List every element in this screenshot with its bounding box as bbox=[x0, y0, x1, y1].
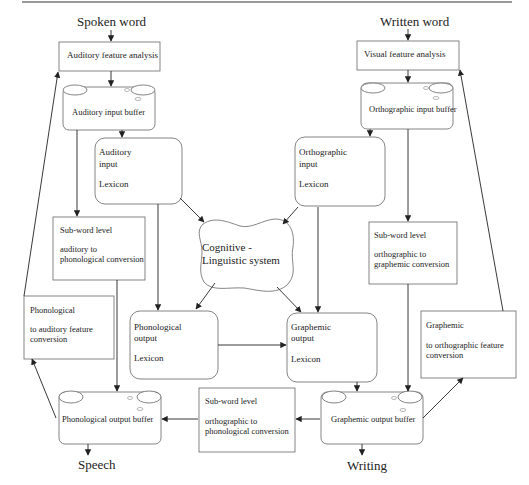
graphemic-output-buffer-label: Graphemic output buffer bbox=[331, 414, 415, 425]
subword-aud-phon-line3: phonological conversion bbox=[60, 254, 144, 265]
subword-orth-graph-line1: Sub-word level bbox=[374, 230, 426, 241]
graph-output-lexicon-line2: output bbox=[291, 333, 314, 344]
writing-label: Writing bbox=[347, 458, 387, 473]
orthographic-input-buffer-label: Orthographic input buffer bbox=[369, 104, 457, 115]
cognitive-linguistic-line2: Linguistic system bbox=[202, 254, 280, 267]
written-word-label: Written word bbox=[380, 14, 449, 29]
phon-to-aud-feature-line3: conversion bbox=[30, 334, 67, 345]
orthographic-input-lexicon-line2: input bbox=[299, 159, 318, 170]
subword-aud-phon-line1: Sub-word level bbox=[60, 225, 112, 236]
phon-output-lexicon-line1: Phonological bbox=[134, 322, 182, 333]
auditory-feature-analysis-label: Auditory feature analysis bbox=[67, 50, 158, 61]
phon-output-lexicon-line3: Lexicon bbox=[134, 353, 164, 364]
phon-to-aud-feature-line1: Phonological bbox=[30, 305, 75, 316]
auditory-input-lexicon-line2: input bbox=[99, 159, 118, 170]
visual-feature-analysis-label: Visual feature analysis bbox=[364, 49, 445, 60]
connection-arrows bbox=[24, 29, 503, 455]
graph-to-orth-feature-line1: Graphemic bbox=[426, 320, 464, 331]
phon-output-lexicon-line2: output bbox=[134, 333, 157, 344]
graph-output-lexicon-line3: Lexicon bbox=[291, 354, 321, 365]
orthographic-input-lexicon-line3: Lexicon bbox=[299, 179, 329, 190]
model-diagram bbox=[0, 0, 529, 485]
cognitive-linguistic-line1: Cognitive - bbox=[202, 241, 252, 254]
auditory-input-buffer-label: Auditory input buffer bbox=[72, 107, 145, 118]
subword-orth-phon-line3: phonological conversion bbox=[205, 426, 289, 437]
subword-orth-graph-line3: graphemic conversion bbox=[374, 259, 449, 270]
speech-label: Speech bbox=[78, 457, 116, 472]
auditory-input-lexicon-line3: Lexicon bbox=[99, 179, 129, 190]
graph-to-orth-feature-line3: conversion bbox=[426, 350, 463, 361]
subword-orth-phon-line1: Sub-word level bbox=[205, 396, 257, 407]
orthographic-input-lexicon-line1: Orthographic bbox=[299, 147, 347, 158]
spoken-word-label: Spoken word bbox=[77, 14, 146, 29]
phonological-output-buffer-label: Phonological output buffer bbox=[62, 414, 153, 425]
graph-output-lexicon-line1: Graphemic bbox=[291, 322, 331, 333]
auditory-input-lexicon-line1: Auditory bbox=[99, 147, 132, 158]
